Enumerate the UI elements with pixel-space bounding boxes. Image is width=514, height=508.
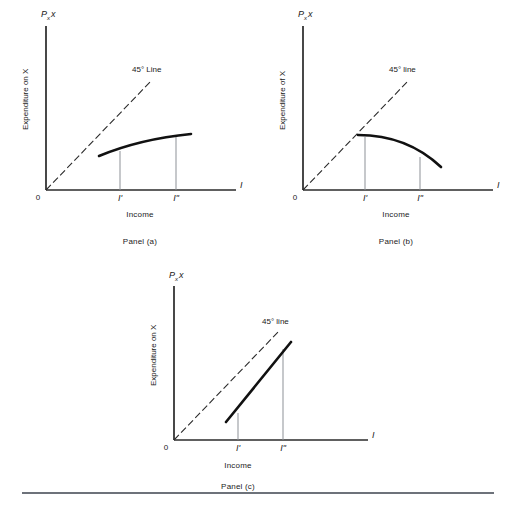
panel-a-x-axis-symbol: I xyxy=(240,180,243,190)
panel-c-y-axis-title: Expenditure on X xyxy=(149,324,158,386)
panel-b-45-degree-line xyxy=(303,80,409,190)
panel-a-expenditure-curve xyxy=(99,134,191,156)
figure-root: Pxx I 0 Expenditure on X 45° Line I' I" … xyxy=(0,0,514,508)
panel-c-x-axis-symbol: I xyxy=(372,430,375,440)
panel-b-tick-low: I' xyxy=(363,193,368,203)
panel-a-45-degree-line xyxy=(46,80,152,190)
panel-c-expenditure-curve xyxy=(226,342,291,422)
panel-b-tick-high: I" xyxy=(417,193,424,203)
panel-a-caption: Panel (a) xyxy=(92,237,188,246)
panel-a-origin-label: 0 xyxy=(36,193,41,202)
panel-b-x-axis-title: Income xyxy=(348,210,444,219)
panel-c-45-degree-label: 45° line xyxy=(262,317,289,326)
panel-c-caption: Panel (c) xyxy=(190,482,286,491)
panel-b-expenditure-curve xyxy=(358,135,441,167)
panel-a-tick-low: I' xyxy=(118,193,123,203)
panel-b-45-degree-label: 45° line xyxy=(389,65,416,74)
panel-c-y-axis-symbol: Pxx xyxy=(169,270,184,282)
panel-c-chart: Pxx I 0 Expenditure on X 45° line I' I" xyxy=(128,268,385,458)
panel-b-x-axis-symbol: I xyxy=(497,180,500,190)
panel-b-origin-label: 0 xyxy=(293,193,298,202)
panel-c-45-degree-line xyxy=(174,330,280,440)
panel-b-y-axis-title: Expenditure of X xyxy=(278,70,287,130)
panel-c-tick-high: I" xyxy=(280,443,287,453)
panel-b-chart: Pxx I 0 Expenditure of X 45° line I' I" xyxy=(257,4,514,204)
panel-c: Pxx I 0 Expenditure on X 45° line I' I" xyxy=(128,268,385,458)
panel-a-x-axis-title: Income xyxy=(92,210,188,219)
panel-b: Pxx I 0 Expenditure of X 45° line I' I" xyxy=(257,4,514,204)
panel-b-y-axis-symbol: Pxx xyxy=(298,9,313,21)
panel-b-caption: Panel (b) xyxy=(348,237,444,246)
panel-a: Pxx I 0 Expenditure on X 45° Line I' I" xyxy=(0,4,257,204)
panel-a-tick-high: I" xyxy=(173,193,180,203)
panel-a-chart: Pxx I 0 Expenditure on X 45° Line I' I" xyxy=(0,4,257,204)
panel-a-y-axis-title: Expenditure on X xyxy=(21,68,30,130)
panel-c-x-axis-title: Income xyxy=(190,461,286,470)
bottom-divider-rule xyxy=(22,492,494,494)
panel-a-45-degree-label: 45° Line xyxy=(132,65,162,74)
panel-c-origin-label: 0 xyxy=(164,443,169,452)
panel-c-tick-low: I' xyxy=(236,443,241,453)
panel-a-y-axis-symbol: Pxx xyxy=(41,9,56,21)
